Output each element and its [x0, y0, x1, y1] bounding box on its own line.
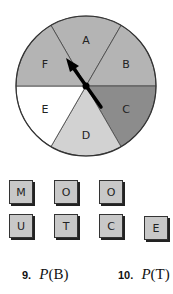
letter-tile-u: U: [9, 214, 33, 238]
label-f: F: [42, 58, 48, 71]
label-b: B: [122, 58, 130, 71]
label-a: A: [82, 34, 90, 47]
letter-tile-o2: O: [99, 180, 123, 204]
label-c: C: [122, 103, 130, 116]
exercise-number: 9.: [22, 269, 31, 281]
exercise-9: 9. P(B): [22, 266, 69, 283]
letter-tile-c: C: [99, 214, 123, 238]
letter-tile-o1: O: [54, 180, 78, 204]
letter-tile-m: M: [9, 180, 33, 204]
label-e: E: [42, 103, 49, 116]
exercise-expression: P(T): [141, 266, 169, 282]
letter-tile-e: E: [144, 216, 168, 240]
exercise-number: 10.: [118, 269, 133, 281]
spinner-wheel: A B C D E F: [0, 0, 173, 172]
exercise-10: 10. P(T): [118, 266, 170, 283]
letter-tile-t: T: [54, 214, 78, 238]
exercise-expression: P(B): [39, 266, 68, 282]
label-d: D: [82, 129, 90, 142]
